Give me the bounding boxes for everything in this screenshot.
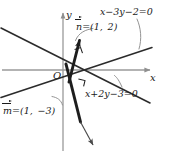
normal-vector-n-arrow xyxy=(69,41,80,83)
direction-vector-symbol: m xyxy=(3,106,12,116)
normal-vector-label: n=(1, 2) xyxy=(76,22,117,32)
equation-label-bottom: x+2y−3=0 xyxy=(85,89,138,99)
right-angle-mark-lower xyxy=(78,79,85,86)
figure-canvas: x−3y−2=0 x+2y−3=0 n=(1, 2) m=(1, −3) y x… xyxy=(0,0,170,153)
direction-vector-components: =(1, −3) xyxy=(12,105,55,116)
direction-vector-m-arrow xyxy=(66,64,93,145)
leader-to-direction-vector xyxy=(52,97,63,106)
normal-vector-symbol: n xyxy=(76,22,82,32)
equation-label-top: x−3y−2=0 xyxy=(100,7,153,17)
leader-to-line-top xyxy=(137,19,141,49)
direction-vector-label: m=(1, −3) xyxy=(3,106,55,116)
normal-vector-components: =(1, 2) xyxy=(82,21,117,32)
y-axis-label: y xyxy=(66,10,72,20)
x-axis-label: x xyxy=(150,73,156,83)
axes-group xyxy=(2,13,150,151)
origin-label: O xyxy=(53,71,61,81)
